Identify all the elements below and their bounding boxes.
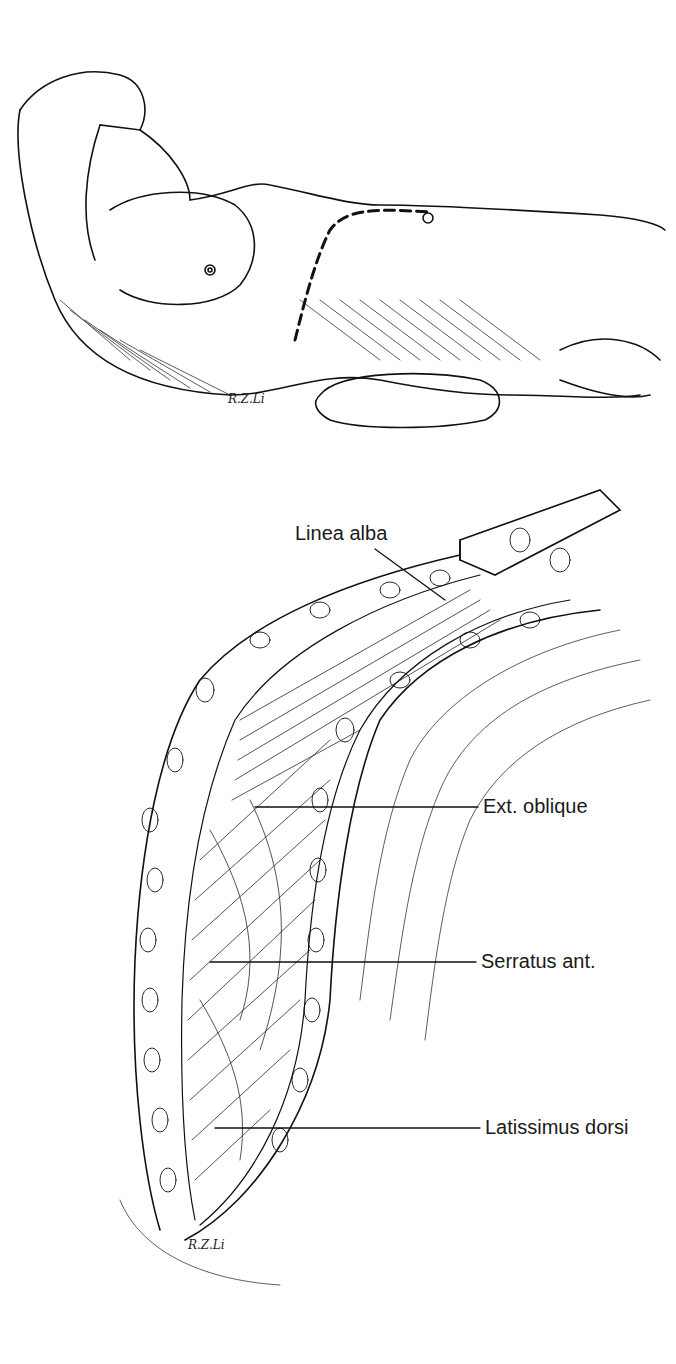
artist-signature-top: R.Z.Li <box>228 392 265 406</box>
breast-outline <box>110 192 254 304</box>
label-serratus-ant: Serratus ant. <box>481 950 596 973</box>
incision-line <box>295 210 430 340</box>
pillow <box>316 374 500 428</box>
label-ext-oblique: Ext. oblique <box>483 795 588 818</box>
torso-lower-outline <box>230 378 640 398</box>
label-linea-alba: Linea alba <box>295 522 387 545</box>
torso-upper-outline <box>140 130 665 230</box>
artist-signature-bottom: R.Z.Li <box>188 1238 225 1252</box>
label-latissimus-dorsi: Latissimus dorsi <box>485 1116 628 1139</box>
arm-outline <box>20 72 145 260</box>
anatomical-illustration <box>0 0 676 1364</box>
retractor <box>460 490 620 575</box>
